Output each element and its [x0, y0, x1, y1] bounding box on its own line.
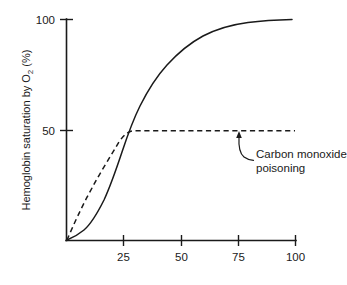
y-tick-label-50: 50	[42, 125, 55, 137]
annotation-line-2: poisoning	[256, 162, 305, 174]
x-tick-label-25: 25	[117, 251, 130, 263]
annotation-leader-line	[239, 137, 254, 160]
annotation-carbon-monoxide: Carbon monoxide poisoning	[256, 148, 347, 174]
y-tick-label-100: 100	[36, 14, 55, 26]
y-axis-title-group: Hemoglobin saturation by O2 (%)	[20, 50, 35, 211]
x-tick-label-75: 75	[232, 251, 245, 263]
series-normal-hemoglobin	[67, 19, 292, 240]
y-axis-title-main: Hemoglobin saturation by O	[20, 74, 32, 211]
annotation-line-1: Carbon monoxide	[256, 148, 347, 160]
annotation-arrow-head	[236, 131, 242, 138]
y-axis-title-suffix: (%)	[20, 50, 32, 70]
oxygen-dissociation-chart: 100 50 25 50 75 100 Hemoglobin saturatio…	[0, 0, 347, 285]
annotation-leader-group	[236, 131, 253, 160]
x-tick-label-50: 50	[175, 251, 188, 263]
y-axis-title: Hemoglobin saturation by O2 (%)	[20, 50, 35, 211]
figure-root: 100 50 25 50 75 100 Hemoglobin saturatio…	[0, 0, 347, 285]
x-tick-label-100: 100	[286, 251, 305, 263]
